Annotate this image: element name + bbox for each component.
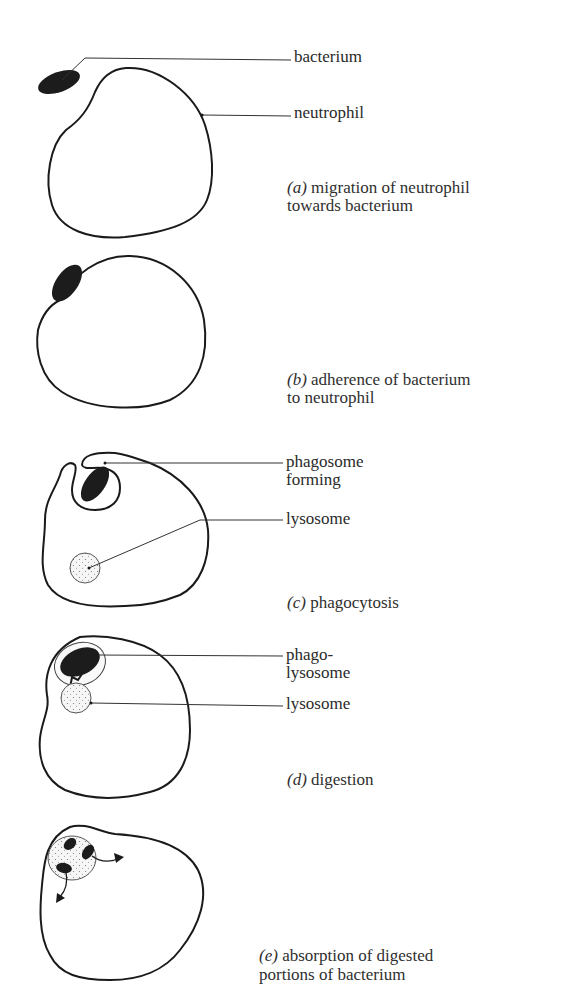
- caption-letter: (b): [287, 370, 307, 389]
- caption-b-line2: to neutrophil: [287, 389, 374, 406]
- panel-b: [37, 256, 205, 408]
- caption-letter: (c): [287, 593, 306, 612]
- bacterium-icon: [35, 65, 83, 99]
- panel-c: [43, 453, 283, 607]
- caption-b: (b) adherence of bacterium: [287, 371, 471, 388]
- label-phago: phago-: [286, 646, 333, 663]
- caption-e: (e) absorption of digested: [259, 947, 433, 964]
- neutrophil-cell-outline: [43, 453, 209, 607]
- caption-e-line2: portions of bacterium: [259, 966, 405, 983]
- caption-letter: (e): [259, 946, 278, 965]
- caption-text: migration of neutrophil: [311, 178, 470, 197]
- caption-text: phagocytosis: [310, 593, 399, 612]
- lysosome-leader-line: [89, 520, 283, 568]
- caption-text: absorption of digested: [282, 946, 433, 965]
- caption-c: (c) phagocytosis: [287, 594, 399, 611]
- caption-text: digestion: [311, 770, 373, 789]
- neutrophil-cell-outline: [48, 68, 212, 238]
- label-lysosome: lysosome: [286, 510, 350, 527]
- panel-d: [40, 635, 283, 797]
- label-phagosome: phagosome: [286, 453, 363, 470]
- label-forming: forming: [286, 471, 341, 488]
- lysosome-icon: [61, 683, 91, 713]
- panel-e: [40, 826, 203, 980]
- label-neutrophil: neutrophil: [294, 104, 364, 121]
- caption-letter: (a): [287, 178, 307, 197]
- bacterium-icon: [46, 259, 88, 306]
- caption-d: (d) digestion: [287, 771, 373, 788]
- phagolysosome-leader-line: [97, 655, 283, 656]
- caption-a-line2: towards bacterium: [287, 197, 413, 214]
- label-bacterium: bacterium: [294, 48, 362, 65]
- caption-text: adherence of bacterium: [311, 370, 471, 389]
- caption-a: (a) migration of neutrophil: [287, 179, 470, 196]
- label-lysosome: lysosome: [286, 695, 350, 712]
- panel-a: [35, 58, 291, 238]
- neutrophil-leader-line: [202, 115, 291, 116]
- caption-letter: (d): [287, 770, 307, 789]
- phagocytosis-diagram: [0, 0, 568, 1000]
- bacterium-leader-line: [62, 58, 291, 80]
- lysosome-icon: [70, 553, 100, 583]
- label-phagolysosome: lysosome: [286, 664, 350, 681]
